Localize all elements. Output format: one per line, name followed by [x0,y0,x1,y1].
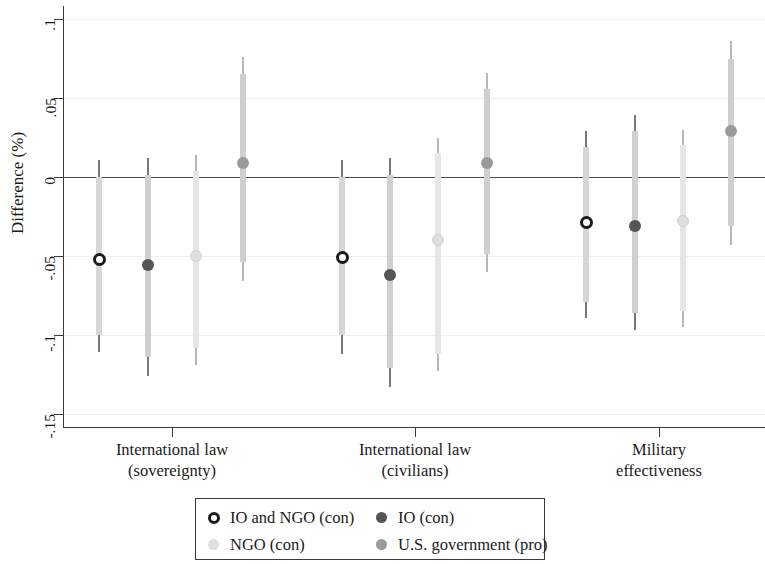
x-axis-tick-mark [659,428,660,437]
legend-label: U.S. government (pro) [398,535,547,555]
legend-swatch [208,539,219,550]
y-axis-tick-label: .05 [42,98,58,117]
legend-label: IO (con) [398,508,454,528]
x-axis-category-label-line: (civilians) [359,461,471,482]
legend-entry-2: NGO (con) [208,535,376,555]
legend-marker-filled-circle-icon [376,512,398,523]
legend-label: IO and NGO (con) [230,508,354,528]
legend-marker-filled-circle-icon [208,539,230,550]
legend-entry-3: U.S. government (pro) [376,535,544,555]
chart-root: Difference (%) .1.050-.05-.1-.15 Interna… [0,0,765,564]
legend-entry-0: IO and NGO (con) [208,508,376,528]
y-axis-title: Difference (%) [8,204,28,234]
legend-swatch [376,539,387,550]
legend-swatch [376,512,387,523]
x-axis-category-label-line: Military [616,440,702,461]
chart-legend: IO and NGO (con) IO (con) NGO (con) U.S.… [195,498,545,560]
x-axis-category-label: International law(sovereignty) [116,440,228,482]
y-axis-tick-label: -.1 [42,335,58,352]
legend-marker-open-circle-icon [208,512,230,524]
legend-label: NGO (con) [230,535,305,555]
x-axis-category-label-line: (sovereignty) [116,461,228,482]
y-axis-tick-label: -.05 [42,256,58,281]
legend-entry-1: IO (con) [376,508,544,528]
x-axis-category-label-line: International law [116,440,228,461]
x-axis-category-label: International law(civilians) [359,440,471,482]
x-axis-category-label: Militaryeffectiveness [616,440,702,482]
x-axis-category-label-line: effectiveness [616,461,702,482]
legend-row: NGO (con) U.S. government (pro) [208,531,544,558]
y-axis-tick-label: -.15 [42,414,58,439]
x-axis-tick-mark [172,428,173,437]
x-axis-category-label-line: International law [359,440,471,461]
plot-frame [63,6,765,428]
y-axis-tick-label: .1 [42,19,58,31]
y-axis-tick-label: 0 [42,177,58,185]
legend-marker-filled-circle-icon [376,539,398,550]
legend-row: IO and NGO (con) IO (con) [208,504,544,531]
x-axis-tick-mark [415,428,416,437]
legend-swatch [208,512,220,524]
